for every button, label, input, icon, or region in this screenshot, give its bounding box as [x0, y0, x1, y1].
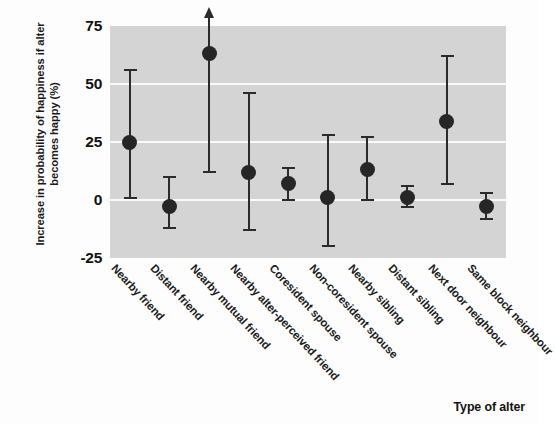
- error-bar-line: [129, 70, 131, 198]
- plot-area: [110, 26, 506, 258]
- error-bar-cap-lower: [401, 206, 414, 208]
- data-point-marker: [241, 165, 256, 180]
- data-point-marker: [320, 190, 335, 205]
- error-bar-cap-upper: [282, 167, 295, 169]
- y-axis-tick-label: 75: [44, 17, 102, 35]
- data-point-marker: [400, 190, 415, 205]
- x-axis-title: Type of alter: [454, 400, 525, 414]
- error-bar-cap-lower: [163, 227, 176, 229]
- error-bar-line: [248, 93, 250, 230]
- error-bar-cap-upper: [163, 176, 176, 178]
- x-axis-tick-label: Next door neighbour: [426, 262, 509, 350]
- error-bar-cap-upper: [441, 55, 454, 57]
- x-axis-tick-label: Nearby mutual friend: [188, 262, 272, 351]
- error-bar-cap-upper: [480, 192, 493, 194]
- y-axis-tick-label: -25: [44, 249, 102, 267]
- error-bar-cap-upper: [243, 92, 256, 94]
- error-bar-cap-lower: [441, 183, 454, 185]
- error-bar-arrow-icon: [204, 7, 214, 18]
- error-bar-cap-upper: [401, 185, 414, 187]
- x-axis-tick-label: Coresident spouse: [267, 262, 344, 343]
- error-bar-cap-lower: [282, 199, 295, 201]
- error-bar-cap-lower: [361, 199, 374, 201]
- data-point-marker: [479, 199, 494, 214]
- error-bar-cap-upper: [322, 134, 335, 136]
- error-bar-cap-lower: [480, 218, 493, 220]
- error-bar-line: [208, 17, 210, 172]
- error-bar-cap-lower: [203, 171, 216, 173]
- data-point-marker: [122, 135, 137, 150]
- data-point-marker: [439, 114, 454, 129]
- error-bar-cap-lower: [124, 197, 137, 199]
- data-point-marker: [360, 162, 375, 177]
- error-bar-cap-upper: [124, 69, 137, 71]
- error-bar-cap-lower: [322, 245, 335, 247]
- data-point-marker: [281, 176, 296, 191]
- data-point-marker: [202, 46, 217, 61]
- error-bar-cap-upper: [361, 136, 374, 138]
- error-bar-cap-lower: [243, 229, 256, 231]
- data-point-marker: [162, 199, 177, 214]
- y-axis-tick-label: 25: [44, 133, 102, 151]
- y-axis-tick-label: 0: [44, 191, 102, 209]
- y-axis-tick-label: 50: [44, 75, 102, 93]
